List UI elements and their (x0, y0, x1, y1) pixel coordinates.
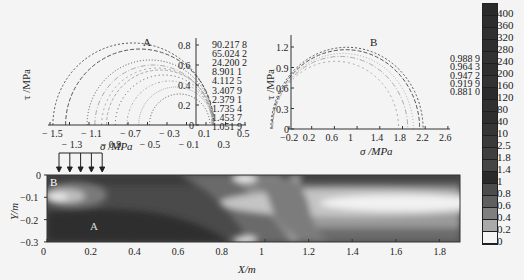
svg-text:0.6: 0.6 (325, 132, 338, 143)
svg-text:−0.2: −0.2 (280, 132, 298, 143)
colorbar-swatch (483, 208, 497, 220)
svg-text:0: 0 (41, 246, 46, 257)
mohr-circle (107, 70, 214, 125)
colorbar-label: 0.4 (497, 212, 511, 223)
colorbar-label: 80 (497, 104, 508, 115)
colorbar-label: 0.6 (497, 200, 511, 211)
mohr-chart-a: − 1.5− 1.1− 0.7− 0.30.10.5− 1.3− 0.9− 0.… (0, 0, 260, 160)
colorbar-label: 10 (497, 128, 508, 139)
svg-text:1: 1 (348, 132, 353, 143)
colorbar-label: 1.4 (497, 164, 511, 175)
colorbar-swatch (483, 136, 497, 148)
svg-text:− 0.5: − 0.5 (140, 139, 161, 150)
colorbar-label: 280 (497, 44, 514, 55)
svg-text:1.4: 1.4 (371, 132, 384, 143)
svg-text:0.4: 0.4 (178, 80, 191, 91)
svg-text:0.2: 0.2 (303, 132, 316, 143)
colorbar-swatch (483, 112, 497, 124)
svg-text:0.2: 0.2 (85, 246, 98, 257)
panel-label-a: A (143, 36, 151, 48)
mohr-circle (273, 53, 414, 129)
colorbar-label: 120 (497, 92, 514, 103)
x-axis-label-contour: X/m (237, 263, 256, 275)
colorbar-swatch (483, 220, 497, 232)
colorbar-swatch (483, 196, 497, 208)
legend-a: 90.217 865.024 224.200 28.901 14.112 53.… (212, 39, 247, 132)
svg-text:1.2: 1.2 (276, 42, 289, 53)
svg-text:− 1.1: − 1.1 (81, 128, 102, 139)
colorbar-swatch (483, 76, 497, 88)
svg-text:2.6: 2.6 (439, 132, 452, 143)
colorbar-swatch (483, 64, 497, 76)
colorbar-swatch (483, 16, 497, 28)
colorbar-label: 1.8 (497, 152, 511, 163)
contour-field (43, 174, 480, 244)
svg-text:1.8: 1.8 (394, 132, 407, 143)
colorbar-label: 320 (497, 32, 514, 43)
colorbar-swatch (483, 4, 497, 16)
colorbar-swatch (483, 40, 497, 52)
colorbar-label: 40 (497, 116, 508, 127)
svg-text:− 1.5: − 1.5 (42, 128, 63, 139)
svg-text:− 1.3: − 1.3 (62, 139, 83, 150)
y-axis-label-a: τ /MPa (20, 69, 32, 100)
point-label-b: B (50, 176, 57, 188)
svg-text:0.1: 0.1 (198, 128, 211, 139)
colorbar-label: 400 (497, 8, 514, 19)
svg-text:1.4: 1.4 (346, 246, 359, 257)
colorbar-label: 2.5 (497, 140, 511, 151)
svg-text:2.2: 2.2 (416, 132, 429, 143)
colorbar-swatch (483, 28, 497, 40)
svg-text:1.6: 1.6 (390, 246, 403, 257)
svg-text:0.8: 0.8 (215, 246, 228, 257)
svg-text:0: 0 (189, 120, 194, 131)
svg-text:0.6: 0.6 (172, 246, 185, 257)
colorbar-label: 1 (497, 176, 503, 187)
svg-text:0.8: 0.8 (178, 40, 191, 51)
panel-label-b: B (370, 36, 377, 48)
mohr-circle (115, 75, 213, 125)
colorbar-label: 200 (497, 68, 514, 79)
contour-plot: 00.20.40.60.811.21.41.61.80−0.1−0.2−0.3 … (0, 150, 480, 280)
colorbar-swatch (483, 100, 497, 112)
colorbar-label: 0.2 (497, 224, 511, 235)
svg-text:−0.2: −0.2 (20, 215, 38, 226)
svg-text:0.881 0: 0.881 0 (450, 86, 480, 97)
colorbar-swatch (483, 148, 497, 160)
colorbar-swatch (483, 124, 497, 136)
colorbar-label: 0 (497, 236, 503, 247)
colorbar-label: 0.8 (497, 188, 511, 199)
svg-text:0.9: 0.9 (276, 63, 289, 74)
svg-text:1.051 9: 1.051 9 (212, 121, 242, 132)
colorbar-swatch (483, 172, 497, 184)
colorbar (482, 3, 498, 245)
colorbar-label: 160 (497, 80, 514, 91)
colorbar-swatch (483, 52, 497, 64)
svg-text:0.6: 0.6 (178, 60, 191, 71)
colorbar-swatch (483, 232, 497, 244)
svg-text:− 0.3: − 0.3 (159, 128, 180, 139)
svg-text:0: 0 (36, 170, 41, 181)
point-label-a: A (90, 220, 98, 232)
svg-text:0.3: 0.3 (276, 104, 289, 115)
svg-text:0.3: 0.3 (218, 139, 231, 150)
legend-b: 0.988 90.964 30.947 20.919 90.881 0 (450, 53, 480, 97)
colorbar-label: 360 (497, 20, 514, 31)
y-axis-label-b: τ /MPa (264, 69, 276, 100)
mohr-chart-b: −0.20.20.611.41.82.22.600.30.60.91.2 B σ… (260, 0, 480, 160)
svg-text:1.8: 1.8 (433, 246, 446, 257)
colorbar-label: 240 (497, 56, 514, 67)
mohr-circle (272, 50, 420, 129)
load-arrows (57, 153, 105, 172)
colorbar-swatch (483, 160, 497, 172)
svg-text:− 0.7: − 0.7 (120, 128, 141, 139)
colorbar-swatch (483, 88, 497, 100)
colorbar-swatch (483, 184, 497, 196)
svg-text:−0.3: −0.3 (20, 237, 38, 248)
svg-text:0: 0 (284, 124, 289, 135)
mohr-circle (66, 49, 214, 125)
svg-text:0.4: 0.4 (128, 246, 141, 257)
svg-text:0.2: 0.2 (178, 100, 191, 111)
svg-text:− 0.1: − 0.1 (179, 139, 200, 150)
svg-text:1.2: 1.2 (303, 246, 316, 257)
